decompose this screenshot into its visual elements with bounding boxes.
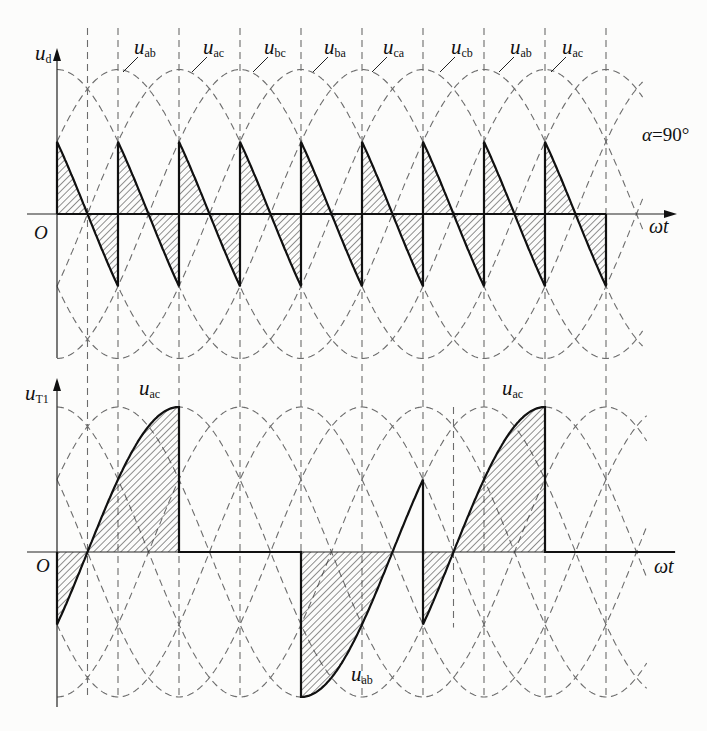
curve-label-u-ba: uba [324,35,347,60]
label-leader-line [123,57,138,72]
label-subscript: ab [362,673,373,687]
label-symbol: u [510,35,521,59]
label-symbol: u [562,35,573,59]
curve-label-u-ac: uac [562,35,583,60]
label-symbol: u [264,35,275,59]
alpha-value: =90° [652,124,689,145]
curve-label-u-ac-1: uac [139,376,160,401]
ut1-panel: uT1 O ωt uac uab uac [25,376,675,707]
label-subscript: ba [335,46,347,60]
x-axis-label: ωt [649,215,669,237]
y-axis-label: uT1 [25,381,49,406]
label-subscript: bc [275,46,286,60]
label-leader-line [440,57,455,72]
label-subscript: cb [462,46,473,60]
label-subscript: ab [145,46,156,60]
label-leader-line [551,57,566,72]
label-subscript: ac [214,46,225,60]
firing-angle-annotation: α=90° [642,124,689,145]
label-symbol: u [203,35,214,59]
label-symbol: u [35,41,46,65]
curve-label-u-bc: ubc [264,35,286,60]
label-subscript: ca [394,46,405,60]
label-subscript: ac [573,46,584,60]
y-axis-label: ud [35,41,52,66]
label-subscript: ac [150,387,161,401]
ud-waveform-layer [57,142,606,286]
label-symbol: u [324,35,335,59]
ud-panel: uabuacubcubaucaucbuabuac ud O ωt α=90° [27,35,689,359]
curve-label-u-ab: uab [510,35,532,60]
label-leader-line [192,57,207,72]
label-leader-line [253,57,268,72]
label-symbol: u [25,381,36,405]
label-symbol: u [451,35,462,59]
label-symbol: u [351,662,362,686]
curve-label-u-ab: uab [134,35,156,60]
label-leader-line [313,57,328,72]
label-leader-line [372,57,387,72]
label-symbol: u [502,376,513,400]
label-subscript: T1 [36,392,49,406]
origin-label: O [34,222,48,243]
curve-label-u-ca: uca [383,35,405,60]
label-subscript: d [46,52,52,66]
label-subscript: ac [513,387,524,401]
waveform-figure: uabuacubcubaucaucbuabuac ud O ωt α=90° u… [0,0,707,731]
curve-label-u-ac-2: uac [502,376,523,401]
curve-labels: uabuacubcubaucaucbuabuac [123,35,583,72]
y-axis-arrow-icon [53,378,61,391]
x-axis-label: ωt [654,555,674,577]
label-leader-line [499,57,514,72]
label-symbol: u [139,376,150,400]
label-symbol: u [383,35,394,59]
label-symbol: u [134,35,145,59]
curve-label-u-cb: ucb [451,35,473,60]
curve-label-u-ac: uac [203,35,224,60]
label-subscript: ab [521,46,532,60]
y-axis-arrow-icon [53,48,61,61]
origin-label: O [36,555,50,576]
